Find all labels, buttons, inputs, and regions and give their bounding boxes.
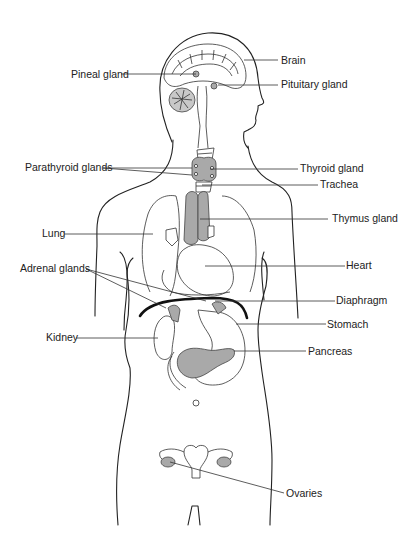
label-thyroid-gland: Thyroid gland — [300, 162, 364, 174]
label-brain: Brain — [281, 54, 306, 66]
neck-organs — [166, 148, 216, 246]
label-parathyroid-glands: Parathyroid glands — [25, 161, 113, 173]
endocrine-system-diagram: Brain Pineal gland Pituitary gland Parat… — [0, 0, 409, 553]
navel — [193, 400, 199, 406]
brain-illustration — [164, 44, 246, 148]
label-stomach: Stomach — [327, 318, 369, 330]
label-diaphragm: Diaphragm — [336, 294, 388, 306]
label-pituitary-gland: Pituitary gland — [281, 78, 348, 90]
label-adrenal-glands: Adrenal glands — [20, 262, 90, 274]
reproductive-organs — [160, 445, 233, 478]
label-pineal-gland: Pineal gland — [71, 68, 129, 80]
heart-illustration — [177, 245, 233, 296]
label-heart: Heart — [346, 259, 372, 271]
label-lung: Lung — [42, 227, 66, 239]
label-kidney: Kidney — [46, 331, 79, 343]
label-thymus-gland: Thymus gland — [332, 212, 398, 224]
label-trachea: Trachea — [320, 178, 358, 190]
label-ovaries: Ovaries — [286, 487, 322, 499]
label-pancreas: Pancreas — [308, 345, 352, 357]
